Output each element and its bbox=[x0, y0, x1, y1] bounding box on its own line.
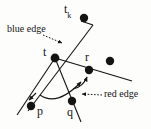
rotation-arc-near-p bbox=[29, 93, 36, 100]
point-label-tk-subscript: k bbox=[67, 11, 71, 20]
point-q bbox=[68, 97, 76, 105]
point-isolated bbox=[106, 57, 114, 65]
t-to-p-line bbox=[17, 58, 55, 115]
point-p bbox=[27, 102, 35, 110]
figure-canvas bbox=[0, 0, 151, 129]
geometry-figure: tk t r p q blue edge red edge bbox=[0, 0, 151, 129]
point-label-tk: tk bbox=[64, 3, 71, 18]
t-to-r-line bbox=[55, 58, 132, 81]
point-r bbox=[85, 66, 93, 74]
blue-edge-line bbox=[28, 25, 93, 111]
rotation-arc-p-to-q bbox=[40, 82, 81, 99]
point-tk bbox=[80, 14, 88, 22]
point-label-q: q bbox=[67, 106, 73, 118]
blue-edge-label: blue edge bbox=[7, 24, 46, 34]
red-edge-label: red edge bbox=[104, 89, 138, 99]
point-label-r: r bbox=[85, 51, 89, 63]
red-edge-pointer bbox=[82, 94, 102, 95]
blue-edge-pointer bbox=[43, 35, 62, 43]
point-label-t: t bbox=[43, 46, 46, 58]
point-t bbox=[51, 54, 60, 63]
point-label-p: p bbox=[37, 105, 43, 117]
